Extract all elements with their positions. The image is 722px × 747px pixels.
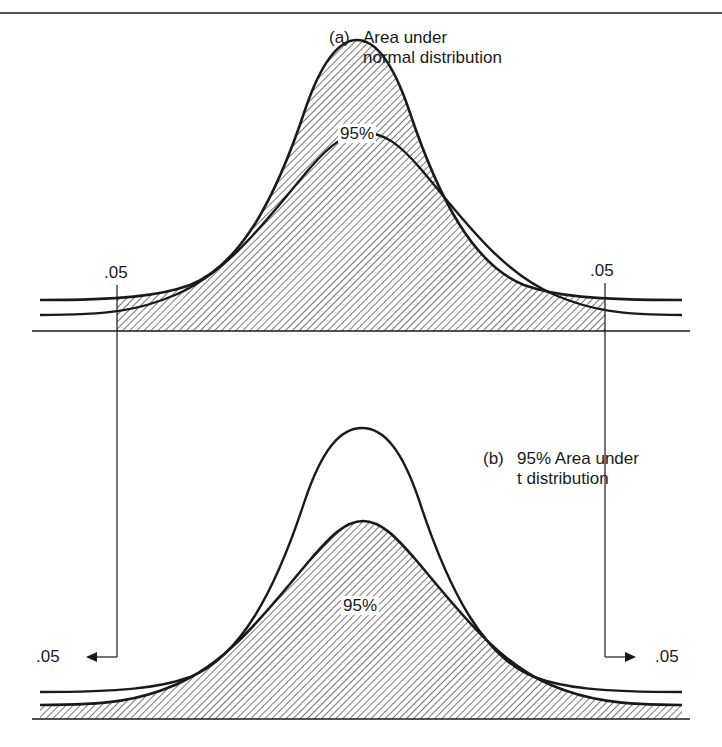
panel-b-right-tail-label: .05 [655,647,679,667]
panel-b-left-tail-label: .05 [36,647,60,667]
panel-b-caption-line1: 95% Area under [517,449,639,468]
right-arrow-icon [625,652,636,662]
panel-a-caption-line2: normal distribution [329,48,502,68]
panel-b-tag: (b) [483,449,517,469]
panel-a-left-tail-label: .05 [104,263,128,283]
panel-a-caption: (a)Area under normal distribution [329,28,502,68]
panel-b-center-label: 95% [341,596,379,615]
panel-a-center-label: 95% [338,124,376,143]
panel-a-right-tail-label: .05 [590,261,614,281]
panel-a-tag: (a) [329,28,363,48]
panel-a-caption-line1: Area under [363,28,447,47]
panel-b-caption-line2: t distribution [483,469,639,489]
panel-a-hatched-area [40,40,682,331]
left-arrow-icon [86,652,97,662]
distribution-diagram [0,0,722,747]
panel-b-caption: (b)95% Area under t distribution [483,449,639,489]
